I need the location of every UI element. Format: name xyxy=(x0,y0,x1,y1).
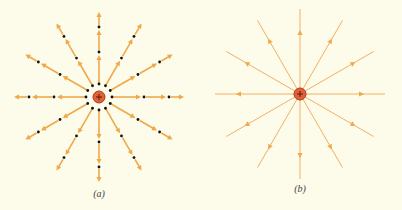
sample-point-dot xyxy=(137,118,140,121)
sample-point-dot xyxy=(133,156,136,159)
caption-a: (a) xyxy=(79,188,119,199)
field-line xyxy=(258,20,301,94)
field-vector xyxy=(44,121,59,130)
sample-point-dot xyxy=(63,35,66,38)
field-vector xyxy=(123,42,132,57)
sample-point-dot xyxy=(59,73,62,76)
field-line xyxy=(300,94,343,168)
sample-point-dot xyxy=(98,141,101,144)
sample-point-dot xyxy=(53,96,56,99)
sample-point-dot xyxy=(91,107,94,110)
arrowhead-icon xyxy=(298,30,303,35)
sample-point-dot xyxy=(158,131,161,134)
sample-point-dot xyxy=(37,61,40,64)
field-vector xyxy=(67,138,76,153)
sample-point-dot xyxy=(158,61,161,64)
sample-point-dot xyxy=(59,118,62,121)
field-vector xyxy=(44,65,59,74)
field-vector xyxy=(123,138,132,153)
arrowhead-icon xyxy=(14,95,19,100)
sample-point-dot xyxy=(91,84,94,87)
field-line xyxy=(226,94,300,137)
arrowhead-icon xyxy=(97,134,102,139)
caption-b: (b) xyxy=(280,183,320,194)
arrowhead-icon xyxy=(97,30,102,35)
field-vector xyxy=(80,63,93,85)
arrowhead-icon xyxy=(298,153,303,158)
sample-point-dot xyxy=(104,107,107,110)
sample-point-dot xyxy=(75,57,78,60)
field-vector xyxy=(65,78,87,91)
field-vector xyxy=(111,104,133,117)
field-vector xyxy=(106,109,119,131)
sample-point-dot xyxy=(98,109,101,112)
field-vector xyxy=(65,104,87,117)
field-line xyxy=(258,94,301,168)
electric-field-diagram xyxy=(0,0,402,210)
arrowhead-icon xyxy=(97,12,102,17)
arrowhead-icon xyxy=(97,159,102,164)
arrowhead-icon xyxy=(32,95,37,100)
field-line xyxy=(300,20,343,94)
sample-point-dot xyxy=(168,96,171,99)
sample-point-dot xyxy=(104,84,107,87)
field-vector xyxy=(140,121,155,130)
field-vector xyxy=(111,78,133,91)
sample-point-dot xyxy=(85,96,88,99)
sample-point-dot xyxy=(28,96,31,99)
sample-point-dot xyxy=(86,102,89,105)
arrowhead-icon xyxy=(161,95,166,100)
sample-point-dot xyxy=(75,135,78,138)
sample-point-dot xyxy=(63,156,66,159)
sample-point-dot xyxy=(98,166,101,169)
panel-a-field-vectors xyxy=(14,12,184,182)
arrowhead-icon xyxy=(57,95,62,100)
arrowhead-icon xyxy=(136,95,141,100)
field-vector xyxy=(67,42,76,57)
sample-point-dot xyxy=(137,73,140,76)
field-vector xyxy=(106,63,119,85)
arrowhead-icon xyxy=(97,177,102,182)
field-vector xyxy=(140,65,155,74)
sample-point-dot xyxy=(37,131,40,134)
sample-point-dot xyxy=(143,96,146,99)
field-line xyxy=(300,52,374,95)
sample-point-dot xyxy=(111,96,114,99)
arrowhead-icon xyxy=(179,95,184,100)
field-line xyxy=(300,94,374,137)
sample-point-dot xyxy=(120,135,123,138)
field-line xyxy=(226,52,300,95)
arrowhead-icon xyxy=(236,92,241,97)
sample-point-dot xyxy=(98,51,101,54)
sample-point-dot xyxy=(109,102,112,105)
sample-point-dot xyxy=(120,57,123,60)
panel-b-field-lines xyxy=(215,9,385,179)
arrowhead-icon xyxy=(359,92,364,97)
sample-point-dot xyxy=(98,83,101,86)
sample-point-dot xyxy=(133,35,136,38)
sample-point-dot xyxy=(109,89,112,92)
field-vector xyxy=(80,109,93,131)
sample-point-dot xyxy=(86,89,89,92)
arrowhead-icon xyxy=(97,55,102,60)
sample-point-dot xyxy=(98,26,101,29)
